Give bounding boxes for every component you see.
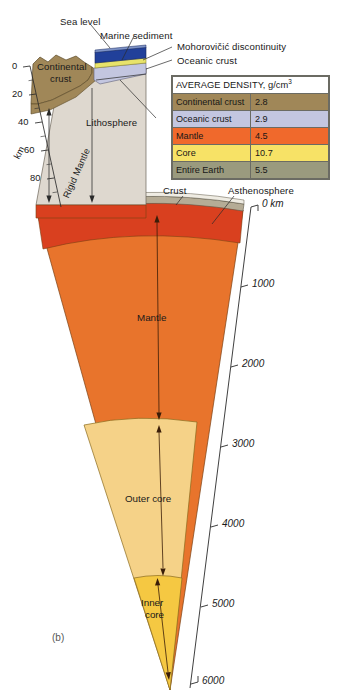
average-density-table: AVERAGE DENSITY, g/cm3 Continental crust… [171, 75, 330, 180]
callout-marine-sediment: Marine sediment [100, 31, 172, 41]
wedge-tick-2000: 2000 [242, 359, 264, 370]
wedge-tick-1000: 1000 [252, 279, 274, 290]
table-row: Oceanic crust 2.9 [173, 111, 329, 128]
figure-label: (b) [52, 633, 64, 644]
wedge-tick-6000: 6000 [202, 676, 224, 687]
label-inner-core-line2: core [145, 610, 164, 621]
row-material: Oceanic crust [173, 111, 251, 128]
inner-core-layer [134, 576, 182, 691]
callout-asthenosphere: Asthenosphere [228, 186, 294, 196]
label-lithosphere: Lithosphere [86, 118, 137, 128]
label-outer-core: Outer core [125, 494, 171, 505]
table-row: Core 10.7 [173, 145, 329, 162]
wedge-tick-5000: 5000 [212, 599, 234, 610]
figure-earth-structure: AVERAGE DENSITY, g/cm3 Continental crust… [0, 0, 343, 699]
table-row: Continental crust 2.8 [173, 94, 329, 111]
row-density: 4.5 [251, 128, 329, 145]
table-title: AVERAGE DENSITY, g/cm [176, 81, 288, 91]
outer-core-layer [84, 418, 197, 690]
label-continental-crust-line1: Continental [37, 62, 87, 72]
wedge-tick-3000: 3000 [232, 439, 254, 450]
inset-tick-0: 0 [12, 61, 17, 71]
table-row: Mantle 4.5 [173, 128, 329, 145]
callout-sea-level: Sea level [60, 17, 100, 27]
wedge-group [38, 192, 244, 690]
table-header-row: AVERAGE DENSITY, g/cm3 [173, 77, 329, 94]
callout-oceanic-crust: Oceanic crust [177, 56, 237, 66]
row-material: Continental crust [173, 94, 251, 111]
row-material: Core [173, 145, 251, 162]
label-continental-crust-line2: crust [50, 74, 71, 84]
inset-tick-40: 40 [18, 117, 28, 127]
inset-tick-60: 60 [24, 145, 34, 155]
inset-tick-20: 20 [12, 89, 22, 99]
row-material: Entire Earth [173, 162, 251, 179]
wedge-tick-0: 0 km [262, 199, 284, 210]
row-density: 2.9 [251, 111, 329, 128]
inset-asthenosphere-strip [36, 205, 146, 218]
table-title-superscript: 3 [288, 78, 292, 85]
table-title-cell: AVERAGE DENSITY, g/cm3 [173, 77, 329, 94]
inset-tick-80: 80 [30, 173, 40, 183]
row-density: 5.5 [251, 162, 329, 179]
row-density: 2.8 [251, 94, 329, 111]
callout-moho: Mohorovičić discontinuity [177, 42, 286, 52]
table-row: Entire Earth 5.5 [173, 162, 329, 179]
row-density: 10.7 [251, 145, 329, 162]
callout-crust: Crust [163, 186, 186, 196]
label-inner-core-line1: Inner [141, 598, 163, 609]
row-material: Mantle [173, 128, 251, 145]
label-mantle: Mantle [137, 313, 166, 324]
wedge-tick-4000: 4000 [222, 519, 244, 530]
